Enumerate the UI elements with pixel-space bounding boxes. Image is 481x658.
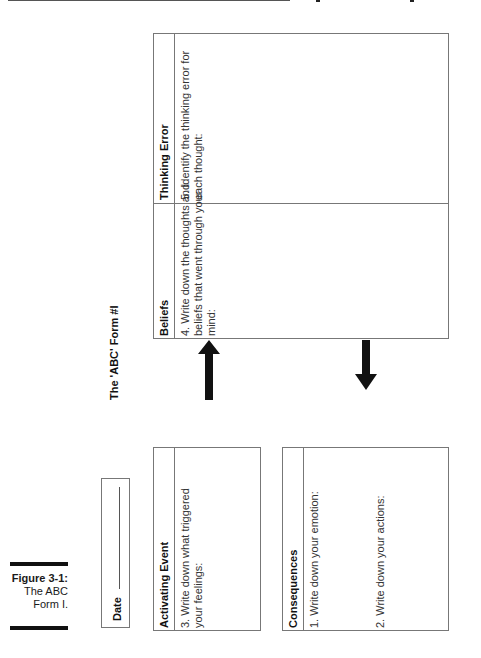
activating-event-prompt-1: 3. Write down what triggered — [179, 488, 192, 628]
header-fragment — [410, 0, 414, 2]
header-fragment — [316, 0, 320, 2]
caption-bottom-rule — [10, 626, 68, 630]
caption-line2: Form I. — [10, 598, 68, 611]
arrow-down-icon — [355, 340, 377, 448]
consequences-actions-area[interactable] — [390, 450, 446, 628]
consequences-heading: Consequences — [287, 550, 300, 628]
caption-top-rule — [10, 562, 68, 566]
header-rule — [8, 0, 290, 1]
caption-label: Figure 3-1: — [10, 572, 68, 585]
activating-event-answer-area[interactable] — [210, 450, 258, 628]
thinking-error-heading: Thinking Error — [158, 124, 171, 200]
activating-event-prompt-2: your feelings: — [192, 563, 205, 628]
form-title: The 'ABC' Form #I — [108, 306, 121, 400]
thinking-error-answer-area[interactable] — [210, 36, 446, 200]
consequences-prompt-emotion: 1. Write down your emotion: — [308, 491, 321, 628]
beliefs-prompt-1: 4. Write down the thoughts and — [179, 184, 192, 336]
arrow-up-icon — [198, 340, 220, 448]
beliefs-heading: Beliefs — [158, 300, 171, 336]
consequences-divider — [303, 447, 304, 631]
figure-caption: Figure 3-1: The ABC Form I. — [10, 572, 68, 611]
thinking-error-prompt-1: 5. Identify the thinking error for — [179, 51, 192, 200]
consequences-emotion-area[interactable] — [324, 450, 374, 628]
thinking-error-prompt-2: each thought: — [192, 133, 205, 200]
consequences-prompt-actions: 2. Write down your actions: — [374, 496, 387, 628]
beliefs-prompt-2: beliefs that went through your — [192, 192, 205, 336]
activating-event-divider — [174, 447, 175, 631]
activating-event-heading: Activating Event — [158, 542, 171, 628]
beliefs-prompt-3: mind: — [205, 309, 218, 336]
date-label: Date — [111, 597, 124, 621]
beliefs-answer-area[interactable] — [222, 206, 446, 336]
header-divider — [174, 33, 175, 339]
caption-line1: The ABC — [10, 585, 68, 598]
date-field[interactable] — [119, 487, 120, 589]
